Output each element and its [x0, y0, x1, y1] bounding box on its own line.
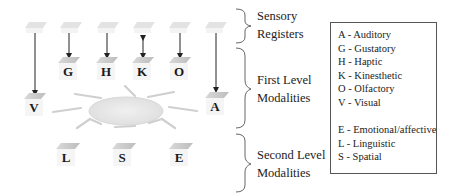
node-a: A [205, 99, 225, 115]
node-e: E [169, 150, 189, 166]
platform-a [205, 92, 229, 98]
register-platform [169, 22, 191, 28]
braces [236, 9, 251, 192]
label-first-level-modalities: First Level Modalities [257, 71, 312, 107]
legend-item-kinesthetic: K - Kinesthetic [338, 69, 436, 83]
label-line: Sensory [257, 7, 304, 25]
brace-first-level [236, 48, 251, 128]
platform-o [169, 57, 191, 63]
platform-h [96, 57, 118, 63]
node-v: V [24, 100, 44, 116]
legend-item-linguistic: L - Linguistic [338, 137, 436, 151]
node-o: O [169, 64, 189, 80]
brace-sensory [236, 9, 251, 43]
legend-item-emotional: E - Emotional/affective [338, 123, 436, 137]
register-platform [97, 22, 119, 28]
register-platform [25, 22, 47, 28]
legend-item-auditory: A - Auditory [338, 28, 436, 42]
node-k: K [132, 64, 152, 80]
brace-second-level [236, 134, 251, 192]
node-g: G [58, 64, 78, 80]
register-platform [133, 22, 155, 28]
label-line: First Level [257, 71, 312, 89]
platform-l [56, 143, 80, 149]
platform-k [132, 57, 154, 63]
legend-box: A - Auditory G - Gustatory H - Haptic K … [330, 22, 437, 174]
label-sensory-registers: Sensory Registers [257, 7, 304, 43]
label-line: Registers [257, 25, 304, 43]
platform-g [58, 57, 80, 63]
central-sun [53, 86, 197, 128]
label-line: Second Level [257, 146, 325, 164]
register-platform [205, 22, 227, 28]
sensory-registers [25, 22, 227, 33]
label-line: Modalities [257, 164, 325, 182]
register-platform [60, 22, 82, 28]
legend-item-spatial: S - Spatial [338, 150, 436, 164]
label-line: Modalities [257, 89, 312, 107]
node-l: L [56, 150, 76, 166]
legend-spacer [338, 110, 436, 124]
platform-s [112, 143, 136, 149]
legend-item-gustatory: G - Gustatory [338, 42, 436, 56]
label-second-level-modalities: Second Level Modalities [257, 146, 325, 182]
sun-core [89, 97, 163, 125]
legend-item-haptic: H - Haptic [338, 55, 436, 69]
node-s: S [112, 150, 132, 166]
legend-item-olfactory: O - Olfactory [338, 82, 436, 96]
platform-e [169, 143, 193, 149]
platform-v [24, 93, 46, 99]
node-h: H [96, 64, 116, 80]
legend-item-visual: V - Visual [338, 96, 436, 110]
